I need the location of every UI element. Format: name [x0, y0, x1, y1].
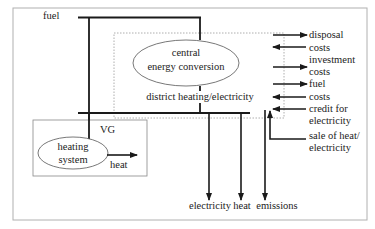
heating-label-line1: heating: [58, 141, 90, 152]
vg-label: VG: [100, 124, 116, 135]
heat-output-label: heat: [233, 200, 251, 211]
cost-label: costs: [309, 42, 330, 53]
central-label-line1: central: [172, 47, 201, 58]
cost-label: electricity: [309, 115, 352, 126]
cost-label: costs: [309, 66, 330, 77]
electricity-output-label: electricity: [189, 200, 232, 211]
cost-label: fuel: [309, 78, 325, 89]
cost-label: sale of heat/: [309, 130, 360, 141]
network-label: district heating/electricity: [146, 91, 254, 102]
emissions-output-label: emissions: [256, 200, 297, 211]
fuel-label: fuel: [43, 10, 59, 21]
output-arrows: [209, 110, 265, 200]
energy-system-diagram: fuel central energy conversion district …: [0, 0, 375, 229]
cost-flow-labels: disposal costs investment costs fuel cos…: [309, 29, 360, 153]
sale-in-arrow-icon: [270, 111, 306, 139]
cost-label: investment: [309, 54, 355, 65]
cost-label: credit for: [309, 103, 348, 114]
central-label-line2: energy conversion: [147, 61, 225, 72]
cost-label: disposal: [309, 29, 344, 40]
heating-label-line2: system: [58, 154, 87, 165]
cost-flow-arrows: [273, 35, 307, 109]
cost-label: electricity: [309, 142, 352, 153]
cost-label: costs: [309, 91, 330, 102]
local-heat-label: heat: [110, 159, 128, 170]
